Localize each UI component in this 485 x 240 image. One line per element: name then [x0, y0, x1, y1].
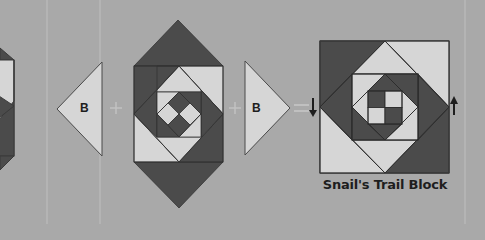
b-triangle-left-label: B	[80, 101, 89, 115]
plus-sign	[229, 102, 241, 114]
top-a-triangle	[134, 20, 223, 66]
equals-sign	[294, 105, 309, 111]
up-arrow-icon	[450, 96, 458, 115]
down-arrow-icon	[309, 98, 317, 117]
plus-sign	[110, 102, 122, 114]
snails-trail-block	[320, 41, 449, 173]
block-caption: Snail's Trail Block	[320, 177, 450, 192]
b-triangle-right-label: B	[252, 101, 261, 115]
partial-center-unit	[0, 48, 14, 170]
bottom-a-triangle	[134, 162, 223, 208]
center-unit	[134, 20, 223, 208]
